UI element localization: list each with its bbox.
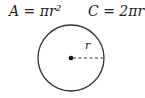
center-point — [69, 56, 74, 61]
radius-label: r — [85, 39, 90, 52]
circle-diagram — [0, 0, 145, 98]
